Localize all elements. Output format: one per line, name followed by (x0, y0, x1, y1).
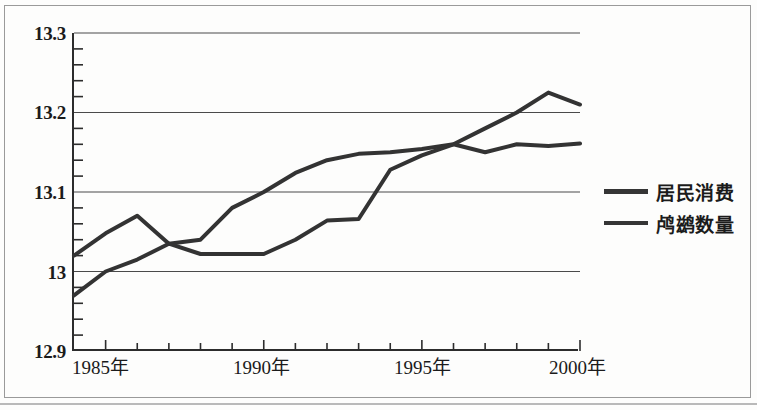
gridlines (74, 33, 580, 272)
line-chart-figure: 13.3 13.2 13.1 13 12.9 1985年 1990年 1995年… (0, 0, 757, 410)
plot-svg (74, 33, 580, 351)
legend-line-swatch-icon (604, 221, 648, 225)
x-axis-tick-label: 1985年 (72, 358, 129, 377)
legend-item-residential-consumption: 居民消费 (604, 175, 754, 207)
x-axis-labels: 1985年 1990年 1995年 2000年 (0, 358, 757, 392)
chart-page: 13.3 13.2 13.1 13 12.9 1985年 1990年 1995年… (0, 0, 757, 410)
x-axis-tick-label: 1995年 (394, 358, 451, 377)
y-axis-labels: 13.3 13.2 13.1 13 12.9 (0, 0, 66, 410)
data-series-lines (74, 93, 580, 296)
x-axis-ticks (106, 340, 580, 351)
series-line-2 (74, 144, 580, 296)
y-axis-tick-label: 13.3 (2, 24, 66, 43)
y-axis-tick-label: 13.1 (2, 183, 66, 202)
legend-line-swatch-icon (604, 189, 648, 194)
series-line-1 (74, 93, 580, 256)
plot-area (72, 33, 578, 351)
x-axis-tick-label: 2000年 (549, 358, 606, 377)
y-axis-tick-label: 13 (2, 263, 66, 282)
legend-item-label: 居民消费 (656, 178, 734, 205)
x-axis-tick-label: 1990年 (233, 358, 290, 377)
legend-item-cormorant-count: 鸬鹚数量 (604, 207, 754, 239)
legend-item-label: 鸬鹚数量 (656, 210, 734, 237)
y-axis-tick-label: 13.2 (2, 103, 66, 122)
chart-legend: 居民消费 鸬鹚数量 (604, 175, 754, 239)
